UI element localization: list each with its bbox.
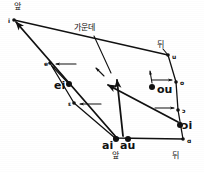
vowel-point-o <box>174 80 178 84</box>
axis-label-front-bottom: 앞 <box>112 152 119 160</box>
glide-arrow-mid-tick <box>96 68 104 76</box>
glide-arrow-ou-to-u <box>150 71 152 83</box>
vowel-label-ɛ: ɛ <box>68 101 71 107</box>
axis-label-back-bottom: 뒤 <box>172 152 179 160</box>
glide-arrow-au-to-mid <box>117 80 123 136</box>
vowel-point-i <box>12 18 16 22</box>
diphthong-label-ei: ei <box>54 80 65 91</box>
vowel-point-e <box>48 61 52 65</box>
diphthong-label-ai: ai <box>102 140 113 151</box>
diphthong-label-ɔi: ɔi <box>182 120 192 131</box>
vowel-point-u <box>166 53 170 57</box>
vowel-label-i: i <box>8 18 10 24</box>
diphthong-label-ou: ou <box>157 84 172 95</box>
vowel-diagram-figure: 앞가운데뒤앞뒤ieɛaɑɔoueiaiauouɔi <box>0 0 204 172</box>
vowel-label-a: a <box>115 135 119 141</box>
vowel-label-ɔ: ɔ <box>182 108 186 114</box>
vowel-label-e: e <box>44 61 48 67</box>
vowel-label-ɑ: ɑ <box>187 138 191 144</box>
diphthong-marker-ou <box>149 84 155 90</box>
diphthong-marker-ei <box>66 81 72 87</box>
vowel-point-ɑ <box>181 137 185 141</box>
vowel-label-u: u <box>172 54 176 60</box>
diphthong-label-au: au <box>120 140 135 151</box>
axis-label-front-top: 앞 <box>14 3 21 11</box>
vowel-point-ɛ <box>72 101 76 105</box>
axis-label-middle-top: 가운데 <box>74 24 95 32</box>
axis-label-back-top: 뒤 <box>157 41 164 49</box>
vowel-label-o: o <box>180 80 184 86</box>
vowel-point-ɔ <box>176 108 180 112</box>
